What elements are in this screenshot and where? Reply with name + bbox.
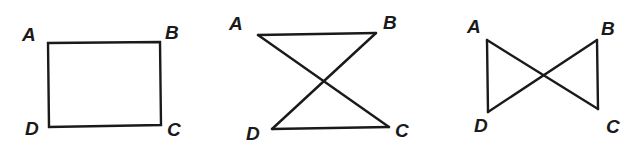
vertex-label-d: D (474, 116, 488, 135)
vertex-label-a: A (22, 25, 36, 44)
figure-bowtie (487, 40, 598, 112)
vertex-label-b: B (383, 13, 397, 32)
edge-bc (597, 40, 598, 109)
vertex-label-d: D (25, 119, 39, 138)
vertex-label-c: C (606, 117, 620, 136)
figure-hourglass (258, 33, 389, 129)
edge-ab (258, 33, 376, 35)
vertex-label-c: C (395, 121, 409, 140)
vertex-label-b: B (165, 23, 179, 42)
edge-dc (272, 127, 389, 129)
vertex-label-b: B (601, 19, 615, 38)
vertex-label-a: A (229, 14, 243, 33)
diagram-canvas (0, 0, 640, 147)
edge-ad (487, 40, 488, 112)
vertex-label-a: A (467, 17, 481, 36)
edge-ca (258, 35, 389, 127)
vertex-label-d: D (246, 124, 260, 143)
vertex-label-c: C (167, 120, 181, 139)
figure-rectangle (48, 42, 161, 127)
rectangle-abcd (48, 42, 161, 127)
